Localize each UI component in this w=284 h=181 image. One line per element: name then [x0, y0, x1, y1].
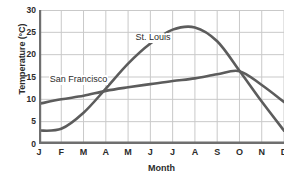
y-axis-tick-label: 20	[14, 50, 36, 59]
x-axis-tick-label: F	[52, 146, 70, 159]
x-axis-tick-labels: JFMAMJJASOND	[39, 146, 284, 162]
x-axis-title: Month	[39, 163, 284, 173]
series-annotation-st-louis: St. Louis	[135, 33, 172, 43]
x-axis-tick-label: D	[275, 146, 284, 159]
y-axis-tick-label: 25	[14, 28, 36, 37]
x-axis-tick-label: M	[75, 146, 93, 159]
x-axis-tick-label: S	[208, 146, 226, 159]
x-axis-tick-label: J	[164, 146, 182, 159]
x-axis-tick-label: A	[186, 146, 204, 159]
y-axis-tick-label: 15	[14, 73, 36, 82]
x-axis-tick-label: A	[97, 146, 115, 159]
x-axis-tick-label: M	[119, 146, 137, 159]
x-axis-tick-label: N	[253, 146, 271, 159]
series-annotation-san-francisco: San Francisco	[49, 75, 109, 85]
x-axis-tick-label: O	[230, 146, 248, 159]
y-axis-tick-label: 5	[14, 117, 36, 126]
x-axis-tick-label: J	[30, 146, 48, 159]
x-axis-tick-label: J	[141, 146, 159, 159]
y-axis-tick-label: 10	[14, 95, 36, 104]
y-axis-tick-label: 30	[14, 6, 36, 15]
temperature-line-chart: Temperature (°C) 051015202530 JFMAMJJASO…	[0, 0, 284, 181]
